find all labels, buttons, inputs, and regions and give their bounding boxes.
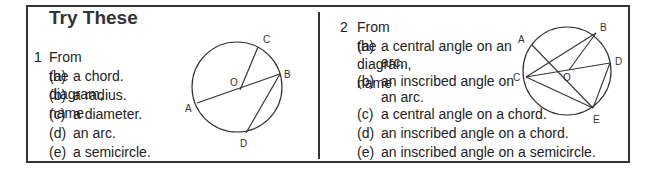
list-item-continuation: arc. (381, 53, 404, 72)
list-item: (c)a diameter. (49, 105, 142, 124)
list-item: (e)an inscribed angle on a semicircle. (357, 143, 596, 162)
question-number: 1 (34, 48, 42, 67)
list-item-continuation: an arc. (381, 88, 424, 107)
svg-text:A: A (518, 34, 525, 45)
list-item: (b)a radius. (49, 86, 127, 105)
svg-text:O: O (563, 72, 571, 83)
svg-text:D: D (615, 56, 622, 67)
circle-diagram-1: C B O A D (180, 30, 300, 155)
column-divider (318, 12, 320, 159)
svg-text:D: D (240, 138, 247, 149)
svg-text:B: B (284, 69, 291, 80)
svg-text:B: B (600, 22, 607, 33)
section-title: Try These (49, 7, 138, 29)
svg-text:C: C (513, 72, 520, 83)
list-item: (d)an arc. (49, 124, 116, 143)
circle-diagram-2: A B C D E O (505, 15, 630, 125)
svg-text:O: O (230, 77, 238, 88)
svg-text:C: C (263, 34, 270, 45)
list-item: (a)a chord. (49, 67, 124, 86)
list-item: (e)a semicircle. (49, 143, 151, 162)
svg-text:A: A (185, 103, 192, 114)
question-number: 2 (340, 18, 348, 37)
svg-text:E: E (593, 114, 600, 125)
list-item: (d)an inscribed angle on a chord. (357, 124, 569, 143)
